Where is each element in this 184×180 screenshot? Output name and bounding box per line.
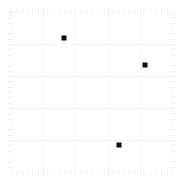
- gridline-horizontal: [11, 140, 172, 141]
- x-axis-minor-ticks-bottom: [11, 172, 172, 175]
- chart-figure: [0, 0, 184, 180]
- gridline-vertical: [140, 12, 141, 172]
- x-axis-minor-ticks-top: [11, 9, 172, 12]
- axis-spine-top: [11, 12, 172, 13]
- gridline-vertical: [108, 12, 109, 172]
- y-axis-minor-ticks-right: [172, 12, 175, 172]
- data-point-marker[interactable]: [116, 142, 121, 147]
- gridline-vertical: [43, 12, 44, 172]
- gridline-vertical: [75, 12, 76, 172]
- axis-spine-left: [11, 12, 12, 172]
- data-point-marker[interactable]: [142, 62, 147, 67]
- plot-area: [11, 12, 172, 172]
- y-axis-minor-ticks-left: [8, 12, 11, 172]
- gridline-horizontal: [11, 108, 172, 109]
- gridline-horizontal: [11, 76, 172, 77]
- data-point-marker[interactable]: [62, 35, 67, 40]
- gridline-horizontal: [11, 44, 172, 45]
